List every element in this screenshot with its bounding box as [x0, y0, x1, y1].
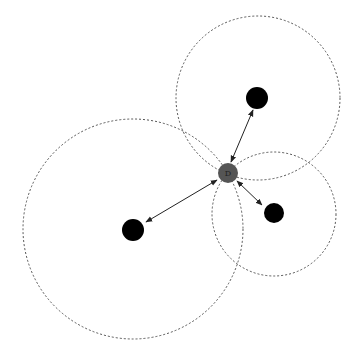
link-d-left: [146, 180, 217, 222]
node-right: [264, 203, 284, 223]
center-node-label: D: [225, 169, 231, 178]
link-d-right: [237, 181, 262, 205]
node-top: [246, 87, 268, 109]
diagram-canvas: D: [0, 0, 355, 351]
link-d-top: [231, 110, 253, 162]
node-left: [122, 219, 144, 241]
